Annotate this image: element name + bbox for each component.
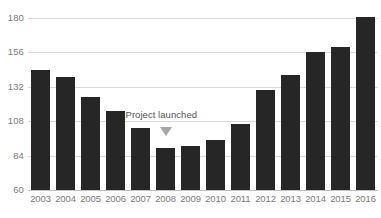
x-axis-tick-label: 2014 — [303, 193, 328, 205]
bar — [256, 90, 275, 190]
plot-area: Project launched — [28, 18, 378, 190]
bar — [156, 148, 175, 190]
bar — [31, 70, 50, 190]
y-axis-tick-label: 84 — [0, 151, 24, 161]
bar — [206, 140, 225, 190]
x-axis-tick-labels: 2003200420052006200720082009201020112012… — [28, 193, 378, 209]
x-axis-tick-label: 2012 — [253, 193, 278, 205]
y-axis-tick-label: 180 — [0, 13, 24, 23]
y-axis-tick-label: 156 — [0, 47, 24, 57]
y-axis-tick-label: 108 — [0, 116, 24, 126]
x-axis-tick-label: 2005 — [78, 193, 103, 205]
x-axis-tick-label: 2010 — [203, 193, 228, 205]
y-axis-tick-labels: 6084108132156180 — [0, 18, 24, 190]
x-axis-tick-label: 2006 — [103, 193, 128, 205]
bar — [231, 124, 250, 190]
x-axis-tick-label: 2011 — [228, 193, 253, 205]
bar — [331, 47, 350, 190]
x-axis-tick-label: 2016 — [353, 193, 378, 205]
y-axis-tick-label: 132 — [0, 82, 24, 92]
bar — [106, 111, 125, 190]
x-axis-tick-label: 2008 — [153, 193, 178, 205]
bar-series — [28, 18, 378, 190]
x-axis-tick-label: 2003 — [28, 193, 53, 205]
x-axis-tick-label: 2015 — [328, 193, 353, 205]
cropped-chart-title — [0, 0, 381, 5]
bar — [131, 128, 150, 190]
x-axis-tick-label: 2004 — [53, 193, 78, 205]
bar — [356, 17, 375, 190]
bar — [81, 97, 100, 190]
x-axis-tick-label: 2013 — [278, 193, 303, 205]
bar — [306, 52, 325, 190]
x-axis-tick-label: 2007 — [128, 193, 153, 205]
gridline — [28, 190, 378, 191]
bar-chart: 6084108132156180 Project launched 200320… — [0, 0, 381, 218]
x-axis-tick-label: 2009 — [178, 193, 203, 205]
bar — [181, 146, 200, 190]
bar — [56, 77, 75, 190]
y-axis-tick-label: 60 — [0, 185, 24, 195]
bar — [281, 75, 300, 190]
